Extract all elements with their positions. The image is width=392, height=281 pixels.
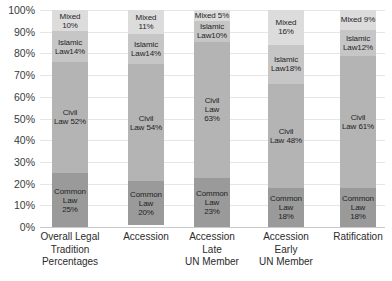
segment-value-label: Civil Law 61% xyxy=(340,113,376,131)
y-axis-tick-60: 60% xyxy=(0,92,40,103)
bar-segment[interactable]: Common Law 25% xyxy=(52,173,88,227)
bar-segment[interactable]: Civil Law 48% xyxy=(268,84,304,188)
segment-value-label: Mixed 16% xyxy=(268,18,304,36)
segment-value-label: Mixed 10% xyxy=(52,12,88,30)
bar-segment[interactable]: Mixed 9% xyxy=(340,10,376,30)
segment-value-label: Mixed 5% xyxy=(194,11,230,20)
bar-segment[interactable]: Islamic Law14% xyxy=(128,34,164,64)
segment-value-label: Mixed 11% xyxy=(128,13,164,31)
bar-column[interactable]: Mixed 10%Islamic Law14%Civil Law 52%Comm… xyxy=(52,10,88,227)
bar-segment[interactable]: Islamic Law18% xyxy=(268,45,304,84)
bar-segment[interactable]: Mixed 11% xyxy=(128,10,164,34)
segment-value-label: Common Law 18% xyxy=(340,194,376,221)
bar-column[interactable]: Mixed 11%Islamic Law14%Civil Law 54%Comm… xyxy=(128,10,164,227)
y-axis-tick-10: 10% xyxy=(0,200,40,211)
bar-segment[interactable]: Civil Law 54% xyxy=(128,64,164,181)
y-axis-tick-80: 80% xyxy=(0,48,40,59)
bar-segment[interactable]: Common Law 18% xyxy=(340,188,376,227)
bar-segment[interactable]: Islamic Law12% xyxy=(340,30,376,56)
segment-value-label: Common Law 18% xyxy=(268,194,304,221)
x-axis-category-label: Accession Early UN Member xyxy=(248,231,324,269)
stacked-bar-chart: 0%10%20%30%40%50%60%70%80%90%100% Mixed … xyxy=(0,0,392,281)
bar-segment[interactable]: Mixed 10% xyxy=(52,10,88,31)
segment-value-label: Islamic Law18% xyxy=(268,55,304,73)
bar-segment[interactable]: Mixed 16% xyxy=(268,10,304,45)
bar-column[interactable]: Mixed 16%Islamic Law18%Civil Law 48%Comm… xyxy=(268,10,304,227)
bar-segment[interactable]: Civil Law 61% xyxy=(340,56,376,188)
y-axis-tick-20: 20% xyxy=(0,178,40,189)
bar-column[interactable]: Mixed 5%Islamic Law10%Civil Law 63%Commo… xyxy=(194,10,230,227)
segment-value-label: Islamic Law12% xyxy=(340,34,376,52)
bar-segment[interactable]: Civil Law 52% xyxy=(52,62,88,174)
y-axis-tick-70: 70% xyxy=(0,70,40,81)
x-axis-category-label: Accession xyxy=(108,231,184,244)
bar-segment[interactable]: Mixed 5% xyxy=(194,10,230,21)
y-axis-tick-50: 50% xyxy=(0,113,40,124)
bar-segment[interactable]: Common Law 20% xyxy=(128,181,164,224)
segment-value-label: Common Law 23% xyxy=(194,189,230,216)
y-axis-tick-30: 30% xyxy=(0,157,40,168)
segment-value-label: Islamic Law14% xyxy=(52,38,88,56)
x-axis-category-label: Accession Late UN Member xyxy=(174,231,250,269)
x-axis-category-label: Overall Legal Tradition Percentages xyxy=(32,231,108,269)
bar-segment[interactable]: Islamic Law10% xyxy=(194,21,230,42)
bar-segment[interactable]: Civil Law 63% xyxy=(194,42,230,177)
bar-segment[interactable]: Common Law 23% xyxy=(194,178,230,227)
bar-column[interactable]: Mixed 9%Islamic Law12%Civil Law 61%Commo… xyxy=(340,10,376,227)
bar-segment[interactable]: Common Law 18% xyxy=(268,188,304,227)
segment-value-label: Islamic Law14% xyxy=(128,40,164,58)
segment-value-label: Common Law 20% xyxy=(128,190,164,217)
gridline-0 xyxy=(40,227,385,228)
segment-value-label: Civil Law 54% xyxy=(128,114,164,132)
bar-segment[interactable]: Islamic Law14% xyxy=(52,31,88,61)
y-axis-tick-100: 100% xyxy=(0,5,40,16)
segment-value-label: Mixed 9% xyxy=(340,15,376,24)
x-axis-category-label: Ratification xyxy=(320,231,392,244)
segment-value-label: Islamic Law10% xyxy=(194,22,230,40)
y-axis-tick-40: 40% xyxy=(0,135,40,146)
segment-value-label: Civil Law 48% xyxy=(268,127,304,145)
plot-area: 0%10%20%30%40%50%60%70%80%90%100% Mixed … xyxy=(40,10,385,227)
segment-value-label: Civil Law 63% xyxy=(194,96,230,123)
y-axis-tick-90: 90% xyxy=(0,26,40,37)
segment-value-label: Civil Law 52% xyxy=(52,108,88,126)
segment-value-label: Common Law 25% xyxy=(52,187,88,214)
